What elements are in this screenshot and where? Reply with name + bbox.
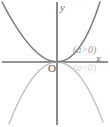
curve-label-a-negative: (a<0) [73, 63, 96, 73]
curve-label-a-positive: (a>0) [73, 45, 96, 55]
x-axis-label: x [96, 53, 101, 64]
parabola-figure: y x O (a>0) (a<0) [0, 0, 110, 127]
y-axis-label: y [60, 2, 65, 13]
origin-label: O [48, 63, 56, 74]
